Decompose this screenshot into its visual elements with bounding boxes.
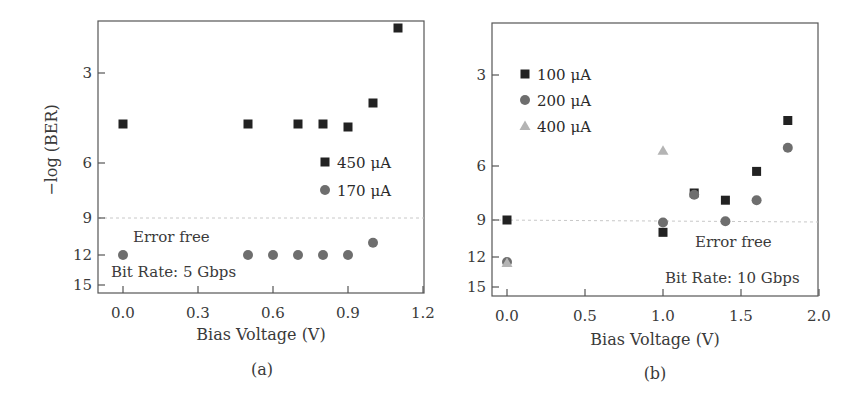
circle-data-point [783, 143, 793, 153]
circle-data-point [243, 250, 253, 260]
triangle-legend-icon [520, 121, 531, 131]
x-tick-label: 0.9 [336, 304, 360, 322]
square-data-point [394, 24, 403, 33]
square-legend-icon [321, 158, 330, 167]
square-data-point [369, 99, 378, 108]
x-tick-label: 0.0 [111, 304, 135, 322]
x-tick-label: 0.6 [261, 304, 285, 322]
plot-frame [492, 23, 818, 296]
square-legend-icon [521, 70, 530, 79]
y-tick-label: 15 [73, 276, 92, 294]
data-points [118, 24, 403, 261]
legend: 100 μA200 μA400 μA [520, 66, 592, 136]
square-data-point [659, 228, 668, 237]
legend: 450 μA170 μA [320, 154, 391, 200]
y-tick-label: 9 [82, 209, 92, 227]
y-axis: 3691215 [73, 64, 105, 294]
square-data-point [244, 120, 253, 129]
square-data-point [752, 167, 761, 176]
x-axis-title: Bias Voltage (V) [590, 330, 719, 349]
circle-legend-icon [320, 185, 330, 195]
circle-data-point [318, 250, 328, 260]
x-tick-label: 1.2 [411, 304, 435, 322]
circle-legend-icon [520, 95, 530, 105]
y-tick-label: 6 [476, 157, 486, 175]
circle-data-point [343, 250, 353, 260]
panel-a-chart: 0.00.30.60.91.2 3691215 450 μA170 μA Err… [42, 21, 435, 379]
x-axis: 0.00.51.01.52.0 [495, 289, 831, 325]
legend-label: 450 μA [337, 154, 391, 172]
threshold-line [492, 220, 818, 222]
circle-data-point [720, 216, 730, 226]
bit-rate-annotation: Bit Rate: 5 Gbps [111, 263, 236, 281]
triangle-data-point [658, 145, 669, 155]
y-tick-label: 3 [82, 64, 92, 82]
error-free-annotation: Error free [133, 228, 210, 246]
x-axis-title: Bias Voltage (V) [196, 325, 325, 344]
legend-label: 200 μA [537, 92, 591, 110]
circle-data-point [689, 190, 699, 200]
y-tick-label: 6 [82, 154, 92, 172]
circle-data-point [118, 250, 128, 260]
x-tick-label: 1.5 [729, 307, 753, 325]
square-data-point [319, 120, 328, 129]
circle-data-point [658, 217, 668, 227]
figure: 0.00.30.60.91.2 3691215 450 μA170 μA Err… [0, 0, 866, 404]
legend-label: 100 μA [537, 66, 591, 84]
y-tick-label: 15 [467, 278, 486, 296]
y-axis-title: −log (BER) [42, 104, 61, 195]
x-tick-label: 0.0 [495, 307, 519, 325]
panel-b-chart: 0.00.51.01.52.0 3691215 100 μA200 μA400 … [467, 23, 831, 383]
x-tick-label: 2.0 [807, 307, 831, 325]
legend-label: 170 μA [337, 182, 391, 200]
circle-data-point [368, 238, 378, 248]
circle-data-point [752, 195, 762, 205]
circle-data-point [268, 250, 278, 260]
square-data-point [294, 120, 303, 129]
square-data-point [503, 216, 512, 225]
square-data-point [721, 196, 730, 205]
x-tick-label: 0.5 [573, 307, 597, 325]
error-free-annotation: Error free [695, 233, 772, 251]
panel-caption: (b) [644, 364, 667, 383]
square-data-point [783, 116, 792, 125]
x-axis: 0.00.30.60.91.2 [111, 286, 435, 322]
y-axis: 3691215 [467, 66, 499, 296]
y-tick-label: 12 [73, 246, 92, 264]
bit-rate-annotation: Bit Rate: 10 Gbps [665, 269, 800, 287]
x-tick-label: 1.0 [651, 307, 675, 325]
y-tick-label: 3 [476, 66, 486, 84]
x-tick-label: 0.3 [186, 304, 210, 322]
panel-caption: (a) [251, 360, 273, 379]
legend-label: 400 μA [537, 118, 591, 136]
circle-data-point [293, 250, 303, 260]
square-data-point [344, 123, 353, 132]
square-data-point [119, 120, 128, 129]
y-tick-label: 9 [476, 211, 486, 229]
y-tick-label: 12 [467, 248, 486, 266]
